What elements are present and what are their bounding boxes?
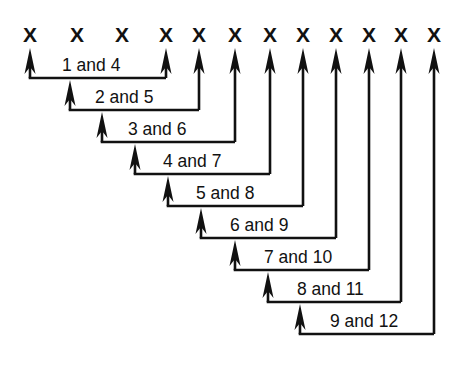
- x-mark-3: X: [115, 23, 129, 46]
- diagram-canvas: XXXXXXXXXXXX 1 and 42 and 53 and 64 and …: [0, 0, 466, 380]
- bracket-label-5: 5 and 8: [196, 183, 254, 203]
- bracket-label-4: 4 and 7: [163, 151, 221, 171]
- bracket-diagram: XXXXXXXXXXXX 1 and 42 and 53 and 64 and …: [0, 0, 466, 380]
- x-mark-5: X: [192, 23, 206, 46]
- x-mark-6: X: [228, 23, 242, 46]
- bracket-label-7: 7 and 10: [264, 247, 332, 267]
- bracket-label-1: 1 and 4: [62, 55, 121, 75]
- x-mark-7: X: [263, 23, 277, 46]
- x-mark-11: X: [394, 23, 408, 46]
- bracket-label-group: 1 and 42 and 53 and 64 and 75 and 86 and…: [62, 55, 398, 331]
- x-mark-4: X: [159, 23, 173, 46]
- x-mark-row: XXXXXXXXXXXX: [23, 23, 441, 46]
- bracket-label-9: 9 and 12: [330, 311, 398, 331]
- bracket-label-8: 8 and 11: [297, 279, 364, 299]
- x-mark-10: X: [362, 23, 376, 46]
- x-mark-12: X: [427, 23, 441, 46]
- x-mark-2: X: [70, 23, 84, 46]
- bracket-label-2: 2 and 5: [95, 87, 153, 107]
- x-mark-9: X: [329, 23, 343, 46]
- bracket-label-6: 6 and 9: [230, 215, 288, 235]
- bracket-label-3: 3 and 6: [128, 119, 186, 139]
- x-mark-8: X: [296, 23, 310, 46]
- x-mark-1: X: [23, 23, 37, 46]
